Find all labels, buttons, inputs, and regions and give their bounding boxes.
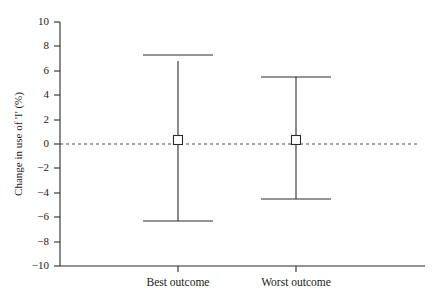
error-bar-best-outcome <box>143 55 213 221</box>
y-tick-label: 2 <box>44 113 50 125</box>
y-tick-label: 10 <box>38 15 50 27</box>
y-tick-label: −6 <box>37 210 49 222</box>
y-axis-ticks <box>54 22 60 266</box>
data-point-marker <box>292 136 301 145</box>
chart-container: Change in use of 'I' (%) 10 8 6 4 2 0 <box>0 0 437 299</box>
y-tick-label: −2 <box>37 161 49 173</box>
data-point-marker <box>174 136 183 145</box>
y-tick-label: 8 <box>44 39 50 51</box>
x-axis-ticks <box>178 266 296 272</box>
y-tick-label: −10 <box>32 259 50 271</box>
y-tick-label: −4 <box>37 186 49 198</box>
error-bar-chart: Change in use of 'I' (%) 10 8 6 4 2 0 <box>0 0 437 299</box>
y-tick-label: 4 <box>44 88 50 100</box>
x-tick-label-worst-outcome: Worst outcome <box>261 276 331 288</box>
y-axis-tick-labels: 10 8 6 4 2 0 −2 −4 −6 −8 −10 <box>32 15 50 271</box>
y-tick-label: −8 <box>37 235 49 247</box>
y-tick-label: 0 <box>44 137 50 149</box>
y-axis-label: Change in use of 'I' (%) <box>12 92 25 196</box>
error-bar-worst-outcome <box>261 77 331 199</box>
y-tick-label: 6 <box>44 64 50 76</box>
x-tick-label-best-outcome: Best outcome <box>147 276 210 288</box>
